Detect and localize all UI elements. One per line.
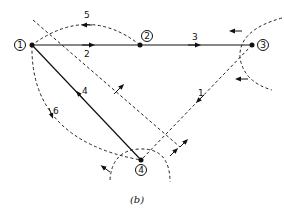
edge-1 (141, 45, 252, 160)
cutset-4-arrow-right-icon (170, 150, 176, 156)
edge-2-label: 2 (84, 49, 90, 59)
edge-6-arrow-icon (49, 108, 52, 116)
node-1-label: 1 (17, 40, 23, 50)
figure-caption: (b) (130, 194, 144, 205)
node-4: 4 (136, 158, 147, 176)
cutset-diagonal (33, 20, 180, 147)
node-2-label: 2 (144, 31, 150, 41)
graph-diagram: 2 3 5 4 1 6 1 2 3 4 (0, 0, 284, 214)
edge-4-label: 4 (82, 86, 88, 96)
node-3-label: 3 (260, 40, 266, 50)
node-1: 1 (15, 40, 35, 51)
edge-3-label: 3 (192, 32, 198, 42)
edge-1-label: 1 (198, 88, 204, 98)
node-3: 3 (250, 40, 269, 51)
edge-5-label: 5 (84, 10, 90, 20)
edge-5 (32, 25, 140, 46)
cutset-diagonal-end-arrow-icon (180, 141, 186, 147)
cutset-4-arrow-left-icon (103, 167, 110, 172)
node-4-label: 4 (138, 165, 144, 175)
edge-6-label: 6 (53, 106, 59, 116)
